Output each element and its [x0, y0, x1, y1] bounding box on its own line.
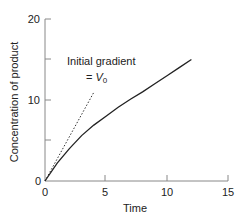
- x-tick-label-10: 10: [161, 186, 173, 198]
- y-tick-label-0: 0: [35, 175, 41, 187]
- chart: 20 10 0 0 5 10 15 Time Concentration of …: [0, 0, 245, 224]
- initial-gradient-line: [45, 92, 94, 181]
- x-tick-label-15: 15: [222, 186, 234, 198]
- y-axis-label: Concentration of product: [8, 42, 20, 162]
- annotation-line1: Initial gradient: [67, 55, 136, 67]
- x-tick-label-0: 0: [42, 186, 48, 198]
- x-axis-label: Time: [123, 202, 147, 214]
- annotation-equals: =: [86, 71, 95, 83]
- annotation-subscript: 0: [103, 76, 108, 85]
- x-tick-label-5: 5: [102, 186, 108, 198]
- annotation-line2: = V0: [86, 71, 108, 85]
- y-tick-label-10: 10: [28, 94, 40, 106]
- product-curve: [45, 60, 191, 182]
- y-tick-label-20: 20: [28, 13, 40, 25]
